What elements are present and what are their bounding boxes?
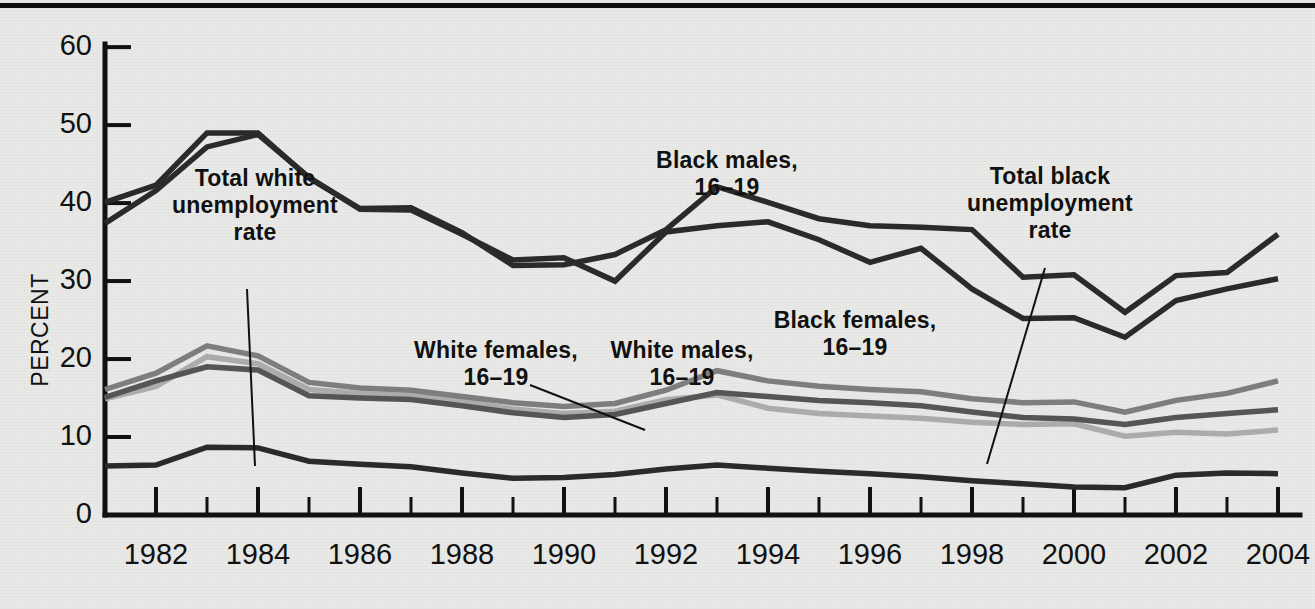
y-tick-label: 50 <box>60 107 92 139</box>
annotation-total-black: Total black unemployment rate <box>960 163 1140 244</box>
annotation-white-females: White females, 16–19 <box>396 337 596 391</box>
x-tick-label: 1986 <box>328 538 393 570</box>
annotation-black-males: Black males, 16–19 <box>632 147 822 201</box>
y-axis-title: PERCENT <box>27 273 53 386</box>
x-tick-label: 1984 <box>226 538 291 570</box>
x-tick-label: 2000 <box>1042 538 1107 570</box>
y-tick-label: 60 <box>60 29 92 61</box>
leader-total-black <box>987 268 1045 464</box>
x-tick-label: 1982 <box>124 538 189 570</box>
leader-total-white <box>247 289 255 466</box>
series-line-total-black <box>105 447 1278 488</box>
x-tick-label-group: 1982198419861988199019921994199619982000… <box>124 538 1311 570</box>
y-tick-label: 0 <box>76 497 92 529</box>
line-chart-canvas: 0102030405060 19821984198619881990199219… <box>0 0 1315 609</box>
y-tick-label: 40 <box>60 185 92 217</box>
x-tick-label: 1998 <box>940 538 1005 570</box>
y-tick-label: 20 <box>60 341 92 373</box>
x-tick-label: 1994 <box>736 538 801 570</box>
annotation-total-white: Total white unemployment rate <box>150 165 360 246</box>
chart-figure: 0102030405060 19821984198619881990199219… <box>0 0 1315 609</box>
x-tick-group <box>105 487 1278 515</box>
x-tick-label: 1996 <box>838 538 903 570</box>
x-tick-label: 1992 <box>634 538 699 570</box>
y-tick-label: 30 <box>60 263 92 295</box>
annotation-black-females: Black females, 16–19 <box>760 307 950 361</box>
y-tick-label: 10 <box>60 419 92 451</box>
y-tick-label-group: 0102030405060 <box>60 29 92 529</box>
x-tick-label: 1990 <box>532 538 597 570</box>
annotation-white-males: White males, 16–19 <box>592 337 772 391</box>
y-tick-group <box>105 47 131 515</box>
x-tick-label: 2004 <box>1246 538 1311 570</box>
x-tick-label: 1988 <box>430 538 495 570</box>
axis-group <box>105 44 1300 515</box>
x-tick-label: 2002 <box>1144 538 1209 570</box>
